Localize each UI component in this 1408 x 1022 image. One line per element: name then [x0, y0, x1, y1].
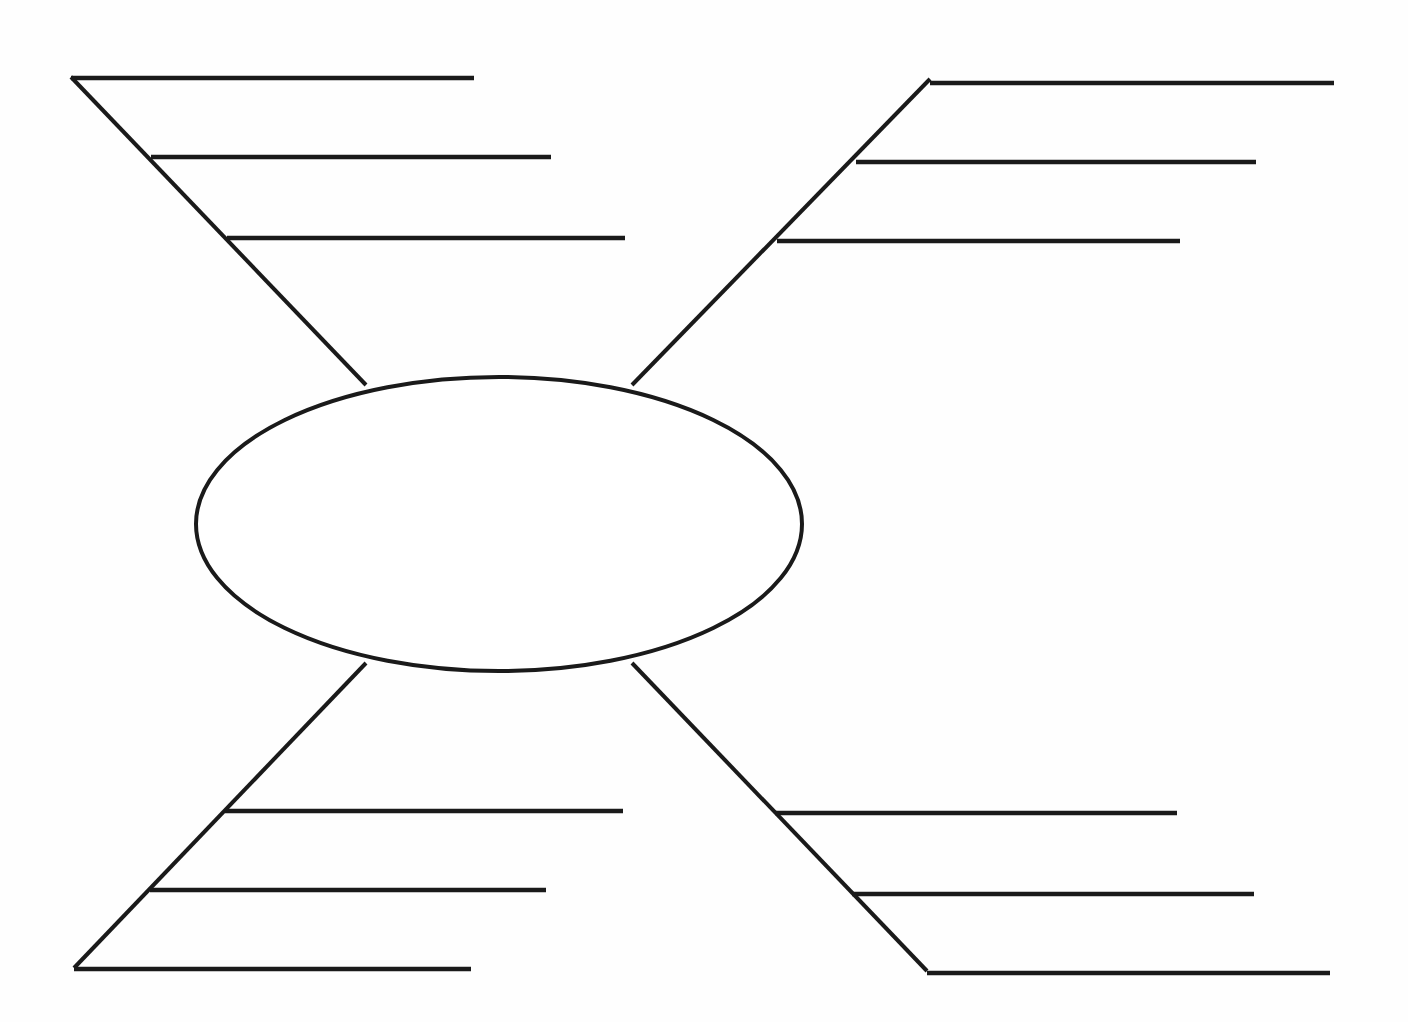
branch-top-right[interactable]: [632, 79, 1334, 385]
branch-bottom-right-spine: [632, 663, 927, 971]
graphic-organizer-canvas: [0, 0, 1408, 1022]
center-node[interactable]: [196, 377, 802, 671]
branch-bottom-left-spine: [74, 663, 366, 968]
branch-top-left-spine: [71, 77, 366, 385]
branch-bottom-right[interactable]: [632, 663, 1330, 973]
branch-bottom-left[interactable]: [74, 663, 623, 969]
organizer-diagram: [0, 0, 1408, 1022]
branch-top-right-spine: [632, 79, 930, 385]
center-node-ellipse[interactable]: [196, 377, 802, 671]
branch-top-left[interactable]: [71, 77, 625, 385]
